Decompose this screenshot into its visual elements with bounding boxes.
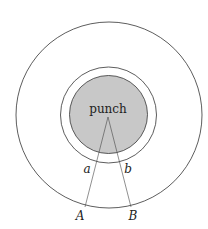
punch-diagram: punch a b A B <box>0 0 208 229</box>
label-B: B <box>128 209 138 223</box>
label-a: a <box>83 162 90 176</box>
punch-label: punch <box>89 102 127 116</box>
label-b: b <box>124 162 132 176</box>
label-A: A <box>75 209 85 223</box>
